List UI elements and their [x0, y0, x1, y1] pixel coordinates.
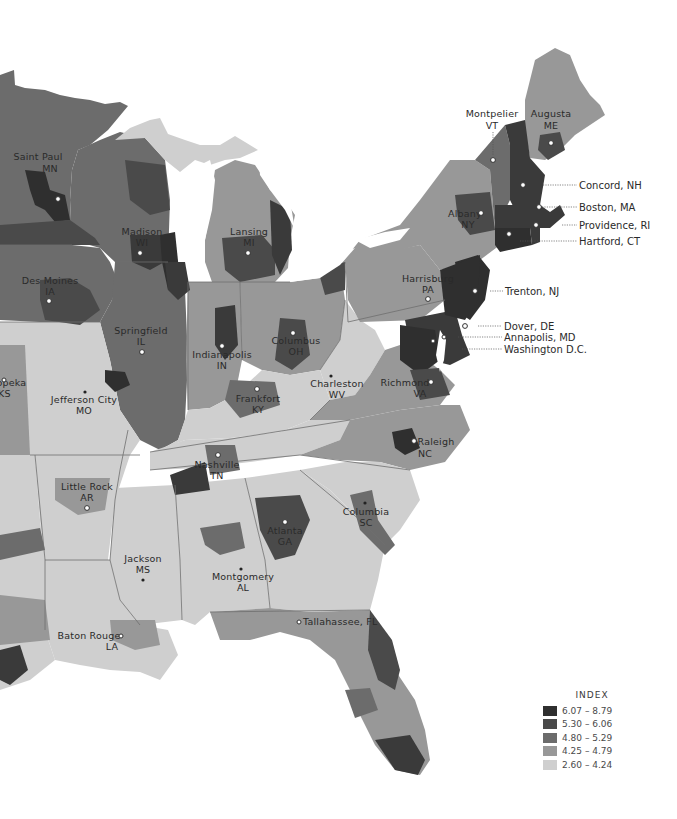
region-ks: [0, 345, 30, 455]
label-indianapolis: Indianapolis: [192, 349, 252, 360]
label-frankfort: Frankfort: [236, 393, 281, 404]
capital-dot-augusta: [549, 141, 554, 146]
label-ks: KS: [0, 388, 11, 399]
legend: INDEX 6.07 – 8.79 5.30 – 6.06 4.80 – 5.2…: [543, 690, 633, 772]
capital-dot-washington: [431, 339, 435, 343]
label-columbia: Columbia: [343, 506, 389, 517]
legend-swatch: [543, 746, 557, 756]
label-albany: Albany: [448, 208, 482, 219]
capital-dot-concord: [521, 183, 526, 188]
label-richmond: Richmond: [380, 377, 429, 388]
legend-swatch: [543, 706, 557, 716]
label-wi: WI: [136, 237, 149, 248]
label-saint-paul: Saint Paul: [13, 151, 62, 162]
legend-label: 4.25 – 4.79: [562, 746, 612, 756]
label-tn: TN: [209, 470, 223, 481]
label-ar: AR: [80, 492, 94, 503]
callout-concord: Concord, NH: [579, 180, 642, 191]
label-madison: Madison: [122, 226, 163, 237]
capital-dot-albany: [479, 211, 484, 216]
region-me: [525, 48, 605, 160]
label-mn: MN: [42, 163, 58, 174]
label-baton-rouge: Baton Rouge: [58, 630, 121, 641]
label-ga: GA: [278, 536, 293, 547]
city-dot-jefferson-city: [83, 390, 86, 393]
label-pa: PA: [422, 284, 434, 295]
city-dot-charleston: [329, 374, 332, 377]
callout-dover: Dover, DE: [504, 321, 554, 332]
capital-dot-richmond: [429, 380, 434, 385]
legend-label: 2.60 – 4.24: [562, 760, 612, 770]
label-des-moines: Des Moines: [22, 275, 79, 286]
label-sc: SC: [359, 517, 372, 528]
label-ia: IA: [45, 286, 55, 297]
legend-swatch: [543, 733, 557, 743]
label-springfield: Springfield: [114, 325, 167, 336]
label-jackson: Jackson: [123, 553, 162, 564]
label-montgomery: Montgomery: [212, 571, 274, 582]
capital-dot-des-moines: [47, 299, 52, 304]
capital-dot-madison: [138, 251, 143, 256]
label-charleston: Charleston: [310, 378, 363, 389]
legend-label: 5.30 – 6.06: [562, 719, 612, 729]
label-ky: KY: [252, 404, 264, 415]
capital-dot-atlanta: [283, 520, 288, 525]
legend-label: 6.07 – 8.79: [562, 706, 612, 716]
region-ct: [495, 228, 532, 252]
label-montpelier: Montpelier: [466, 108, 519, 119]
capital-dot-dover: [463, 324, 468, 329]
label-little-rock: Little Rock: [61, 481, 113, 492]
capital-dot-topeka: [2, 378, 6, 382]
capital-dot-frankfort: [255, 387, 260, 392]
capital-dot-harrisburg: [426, 297, 431, 302]
callout-providence: Providence, RI: [579, 220, 650, 231]
label-oh: OH: [288, 346, 303, 357]
label-ny: NY: [461, 219, 474, 230]
capital-dot-saint-paul: [56, 197, 61, 202]
capital-dot-nashville: [216, 453, 221, 458]
capital-dot-lansing: [246, 251, 251, 256]
label-nc: NC: [418, 448, 432, 459]
label-me: ME: [544, 120, 559, 131]
capital-dot-boston: [537, 205, 542, 210]
legend-item: 2.60 – 4.24: [543, 758, 633, 772]
label-va: VA: [414, 388, 427, 399]
label-augusta: Augusta: [531, 108, 571, 119]
legend-item: 4.25 – 4.79: [543, 745, 633, 759]
capital-dot-springfield: [140, 350, 145, 355]
label-jefferson-city: Jefferson City: [50, 394, 117, 405]
capital-dot-trenton: [473, 289, 478, 294]
cluster-tx-east: [0, 595, 50, 645]
label-tallahassee: Tallahassee, FL: [302, 616, 378, 627]
callout-trenton: Trenton, NJ: [504, 286, 559, 297]
capital-dot-hartford: [507, 232, 512, 237]
label-mo: MO: [76, 405, 92, 416]
capital-dot-raleigh: [412, 439, 417, 444]
callout-annapolis: Annapolis, MD: [504, 332, 576, 343]
label-raleigh: Raleigh: [418, 436, 455, 447]
label-wv: WV: [329, 389, 346, 400]
capital-dot-columbus: [291, 331, 296, 336]
label-atlanta: Atlanta: [267, 525, 303, 536]
capital-dot-little-rock: [85, 506, 90, 511]
legend-item: 4.80 – 5.29: [543, 731, 633, 745]
callout-hartford: Hartford, CT: [579, 236, 641, 247]
region-ma: [495, 205, 565, 230]
capital-dot-tallahassee: [297, 620, 301, 624]
legend-swatch: [543, 719, 557, 729]
label-mi: MI: [243, 237, 254, 248]
city-dot-columbia: [363, 501, 366, 504]
legend-item: 6.07 – 8.79: [543, 704, 633, 718]
label-harrisburg: Harrisburg: [402, 273, 454, 284]
capital-dot-annapolis: [442, 335, 446, 339]
callout-washington: Washington D.C.: [504, 344, 587, 355]
legend-label: 4.80 – 5.29: [562, 733, 612, 743]
legend-swatch: [543, 760, 557, 770]
capital-dot-montpelier: [491, 158, 496, 163]
legend-title: INDEX: [551, 690, 633, 700]
legend-item: 5.30 – 6.06: [543, 718, 633, 732]
city-dot-jackson: [141, 578, 144, 581]
label-al: AL: [237, 582, 250, 593]
capital-dot-baton-rouge: [119, 634, 123, 638]
capital-dot-indianapolis: [220, 344, 225, 349]
